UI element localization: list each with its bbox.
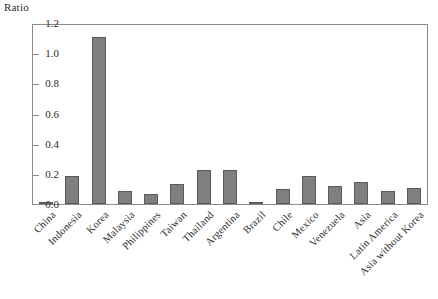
- bar: [328, 186, 342, 204]
- bar: [118, 191, 132, 204]
- x-tick-label: Brazil: [241, 209, 268, 236]
- bar: [223, 170, 237, 204]
- bars-container: [32, 24, 428, 205]
- bar: [170, 184, 184, 204]
- bar: [381, 191, 395, 204]
- bar: [302, 176, 316, 204]
- bar: [65, 176, 79, 204]
- y-axis-title: Ratio: [4, 1, 29, 14]
- bar: [39, 202, 53, 204]
- bar: [276, 189, 290, 204]
- x-axis-labels: ChinaIndonesiaKoreaMalaysiaPhilippinesTa…: [32, 205, 428, 299]
- bar: [407, 188, 421, 204]
- bar: [249, 202, 263, 204]
- bar-chart-figure: Ratio 0.00.20.40.60.81.01.2 ChinaIndones…: [0, 0, 438, 299]
- bar: [197, 170, 211, 204]
- bar: [92, 37, 106, 204]
- x-tick-label: Asia: [351, 209, 374, 232]
- bar: [144, 194, 158, 204]
- bar: [354, 182, 368, 204]
